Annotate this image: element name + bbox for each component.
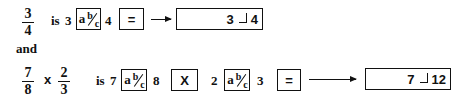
arrow-right-icon bbox=[309, 79, 356, 80]
key-c-label: c bbox=[243, 79, 247, 90]
numerator: 2 bbox=[59, 66, 70, 81]
calculator-display: 3 4 bbox=[176, 8, 263, 30]
operand: 4 bbox=[105, 14, 112, 27]
whole-number: 3 bbox=[65, 14, 72, 27]
fraction-3-4: 3 4 bbox=[22, 7, 34, 38]
fraction-separator-icon bbox=[420, 73, 428, 83]
fraction-separator-icon bbox=[239, 13, 247, 23]
equals-label: = bbox=[285, 73, 293, 88]
bc-glyph: b c bbox=[87, 11, 98, 27]
fraction-key-abc-2[interactable]: a b c bbox=[224, 69, 250, 91]
denominator: 8 bbox=[25, 82, 32, 95]
arrow-right-icon bbox=[151, 19, 171, 20]
key-a-label: a bbox=[227, 72, 234, 88]
equals-key[interactable]: = bbox=[119, 8, 144, 30]
denominator: 3 bbox=[61, 82, 68, 95]
display-right: 12 bbox=[432, 72, 446, 87]
key-a-label: a bbox=[79, 11, 86, 27]
is-label: is bbox=[51, 14, 60, 27]
multiply-operator: x bbox=[44, 73, 51, 86]
bc-glyph: b c bbox=[236, 72, 247, 88]
fraction-7-8: 7 8 bbox=[22, 66, 34, 95]
whole-number-1: 7 bbox=[110, 74, 117, 87]
display-right: 4 bbox=[251, 12, 258, 27]
bc-glyph: b c bbox=[133, 72, 144, 88]
fraction-key-abc-1[interactable]: a b c bbox=[121, 69, 147, 91]
display-left: 3 bbox=[227, 12, 234, 27]
multiply-key[interactable]: X bbox=[171, 69, 198, 91]
whole-number-2: 2 bbox=[211, 74, 218, 87]
is-label: is bbox=[96, 74, 105, 87]
operand-2: 3 bbox=[257, 74, 264, 87]
equals-key[interactable]: = bbox=[277, 69, 301, 91]
numerator: 3 bbox=[23, 7, 34, 22]
display-left: 7 bbox=[407, 72, 414, 87]
and-label: and bbox=[16, 42, 37, 55]
numerator: 7 bbox=[23, 66, 34, 81]
operand-1: 8 bbox=[153, 74, 160, 87]
denominator: 4 bbox=[25, 23, 32, 38]
fraction-key-abc[interactable]: a b c bbox=[76, 8, 101, 30]
key-c-label: c bbox=[140, 79, 144, 90]
fraction-2-3: 2 3 bbox=[58, 66, 70, 95]
key-a-label: a bbox=[124, 72, 131, 88]
equals-label: = bbox=[128, 12, 136, 27]
calculator-display: 7 12 bbox=[365, 68, 451, 90]
key-c-label: c bbox=[95, 18, 99, 29]
multiply-label: X bbox=[180, 73, 189, 88]
